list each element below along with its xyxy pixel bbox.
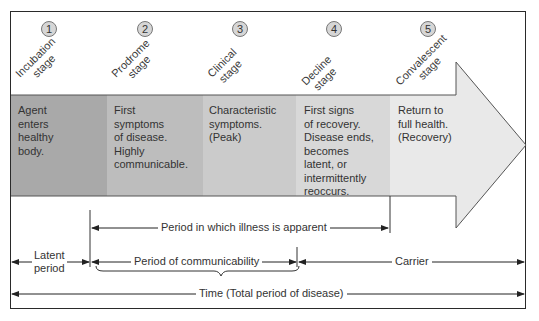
stage-description-2: First symptoms of disease. Highly commun… xyxy=(114,104,188,172)
latent-period-label: Latent period xyxy=(32,249,67,275)
stage-number-3: 3 xyxy=(232,21,248,37)
stage-number-4: 4 xyxy=(326,21,342,37)
carrier-label: Carrier xyxy=(392,255,432,268)
stage-description-1: Agent enters healthy body. xyxy=(18,104,53,158)
illness-apparent-label: Period in which illness is apparent xyxy=(158,221,330,234)
stage-description-4: First signs of recovery. Disease ends, b… xyxy=(304,104,374,199)
stage-description-3: Characteristic symptoms. (Peak) xyxy=(209,104,276,145)
big-arrow xyxy=(11,62,526,228)
stage-description-5: Return to full health. (Recovery) xyxy=(398,104,452,145)
stage-number-2: 2 xyxy=(137,21,153,37)
stage-arrow-graphic xyxy=(0,0,539,321)
stage-number-5: 5 xyxy=(420,21,436,37)
communicability-label: Period of communicability xyxy=(131,255,262,268)
total-period-label: Time (Total period of disease) xyxy=(196,287,347,300)
